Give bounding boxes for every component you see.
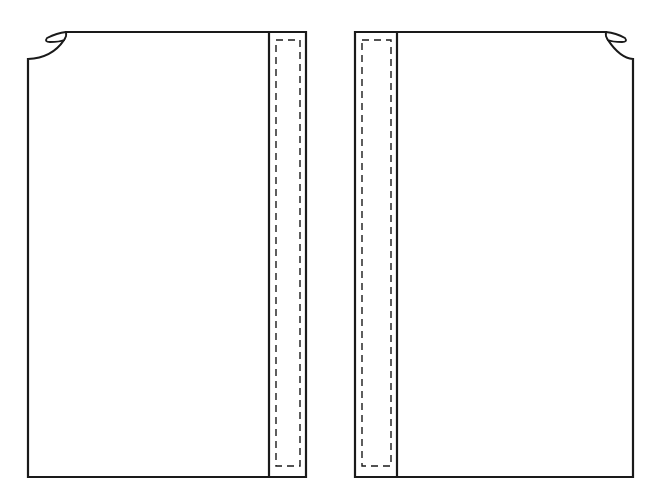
right-front-piece [355,32,633,477]
left-piece-outline [28,32,306,477]
pattern-svg [0,0,661,504]
left-shoulder-notch [46,32,66,42]
right-shoulder-notch [606,32,626,42]
left-front-piece [28,32,306,477]
pattern-diagram [0,0,661,504]
